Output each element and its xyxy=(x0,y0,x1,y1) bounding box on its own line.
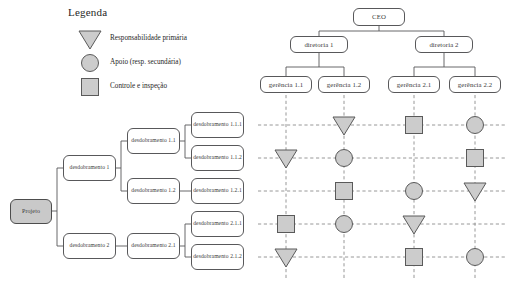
legend-symbols-layer xyxy=(0,0,516,285)
raci-matrix-diagram: Legenda Responsabilidade primária Apoio … xyxy=(0,0,516,285)
legend-square-icon xyxy=(82,79,99,96)
legend-triangle-icon xyxy=(79,31,101,49)
legend-circle-icon xyxy=(82,55,99,72)
